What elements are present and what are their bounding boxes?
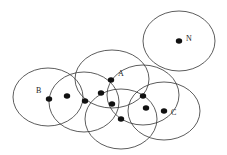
label-b: B [36,86,41,95]
label-a: A [118,69,124,78]
point-4 [98,90,104,96]
label-n: N [186,34,192,43]
diagram-svg: BACN [0,0,227,155]
cluster-diagram: BACN [0,0,227,155]
point-7 [118,116,124,122]
point-8 [140,93,146,99]
point-a [108,77,114,83]
point-6 [109,101,115,107]
point-b [46,96,52,102]
label-c: C [171,108,176,117]
point-n [176,38,182,44]
point-2 [64,93,70,99]
point-3 [82,98,88,104]
point-c [161,108,167,114]
point-9 [143,105,149,111]
